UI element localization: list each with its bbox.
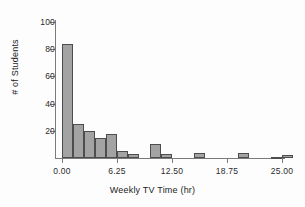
- x-axis-line: [55, 158, 285, 159]
- x-axis-tick: [62, 158, 63, 163]
- histogram-bar: [238, 153, 249, 158]
- x-axis-tick: [282, 158, 283, 163]
- y-axis-tick-label: 100: [31, 18, 55, 27]
- histogram-bar: [194, 153, 205, 158]
- y-axis-tick-label-wrap: 40: [20, 100, 55, 109]
- histogram-bar: [150, 144, 161, 158]
- histogram-bar: [161, 154, 172, 158]
- y-axis-tick-label: 20: [31, 127, 55, 136]
- histogram-bar: [62, 44, 73, 158]
- histogram-bar: [117, 151, 128, 158]
- histogram-figure: 20406080100 0.006.2512.5018.7525.00 # of…: [0, 0, 305, 207]
- histogram-bar: [73, 124, 84, 158]
- y-axis-tick-label-wrap: 80: [20, 45, 55, 54]
- y-axis-tick-label: 40: [31, 100, 55, 109]
- y-axis-tick-label-wrap: 20: [20, 127, 55, 136]
- y-axis-line: [55, 20, 56, 159]
- histogram-bar: [95, 138, 106, 158]
- y-axis-tick-label: 60: [31, 72, 55, 81]
- y-axis-tick-label-wrap: 100: [20, 18, 55, 27]
- y-axis-title: # of Students: [10, 22, 20, 112]
- x-axis-tick-label: 12.50: [150, 166, 194, 176]
- y-axis-tick-label: 80: [31, 45, 55, 54]
- histogram-bar: [106, 134, 117, 158]
- histogram-bar: [282, 155, 293, 158]
- plot-area: 20406080100 0.006.2512.5018.7525.00 # of…: [0, 0, 305, 207]
- y-axis-tick-label-wrap: 60: [20, 72, 55, 81]
- x-axis-tick: [172, 158, 173, 163]
- histogram-bar: [84, 131, 95, 158]
- histogram-bar: [271, 157, 282, 159]
- x-axis-tick-label: 25.00: [260, 166, 304, 176]
- x-axis-tick: [227, 158, 228, 163]
- x-axis-title: Weekly TV Time (hr): [0, 185, 305, 195]
- x-axis-tick-label: 0.00: [40, 166, 84, 176]
- x-axis-tick-label: 18.75: [205, 166, 249, 176]
- x-axis-tick-label: 6.25: [95, 166, 139, 176]
- x-axis-tick: [117, 158, 118, 163]
- histogram-bar: [128, 154, 139, 158]
